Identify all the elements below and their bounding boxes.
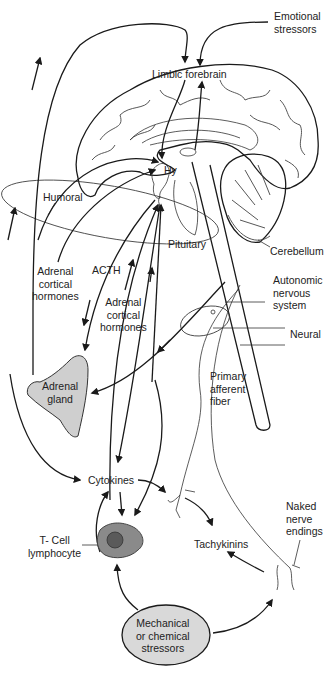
label-primary-afferent-fiber: Primary afferent fiber — [210, 370, 246, 408]
label-cerebellum: Cerebellum — [270, 245, 324, 258]
label-pituitary: Pituitary — [168, 238, 206, 251]
t-cell-nucleus — [107, 532, 123, 548]
label-acth: ACTH — [92, 264, 121, 277]
label-autonomic-nervous-system: Autonomic nervous system — [273, 274, 323, 312]
label-hy: Hy — [164, 164, 177, 177]
label-t-cell-lymphocyte: T- Cell lymphocyte — [28, 534, 81, 559]
label-mechanical-chemical-stressors: Mechanical or chemical stressors — [136, 617, 190, 655]
label-adrenal-gland: Adrenal gland — [42, 380, 78, 405]
label-naked-nerve-endings: Naked nerve endings — [286, 500, 323, 538]
label-emotional-stressors: Emotional stressors — [274, 10, 321, 35]
label-neural: Neural — [290, 328, 321, 341]
label-adrenal-cortical-hormones-center: Adrenal cortical hormones — [100, 296, 147, 334]
label-limbic-forebrain: Limbic forebrain — [152, 68, 227, 81]
label-cytokines: Cytokines — [88, 474, 134, 487]
label-adrenal-cortical-hormones-left: Adrenal cortical hormones — [32, 265, 79, 303]
label-tachykinins: Tachykinins — [194, 538, 248, 551]
label-humoral: Humoral — [43, 191, 83, 204]
diagram-canvas — [0, 0, 333, 677]
